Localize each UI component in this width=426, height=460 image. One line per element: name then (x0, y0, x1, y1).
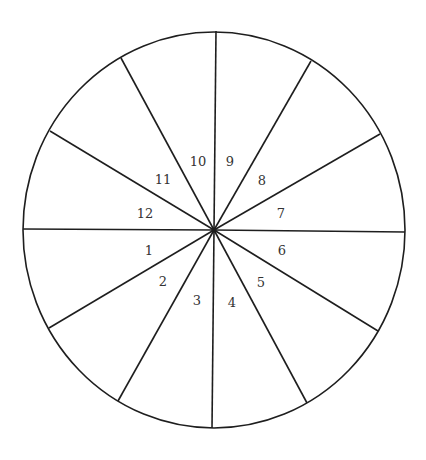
spoke-lower-left-1 (49, 230, 214, 328)
sector-label-2: 2 (159, 275, 167, 288)
center-point (212, 228, 217, 233)
sector-label-8: 8 (258, 174, 266, 187)
spoke-upper-right-1 (214, 61, 311, 230)
sector-label-5: 5 (257, 276, 265, 289)
spoke-upper-right-2 (214, 134, 380, 230)
divided-circle-diagram: 123456789101112 (0, 0, 426, 460)
sector-label-4: 4 (228, 296, 236, 309)
spoke-right (214, 230, 405, 232)
spoke-top (214, 31, 216, 230)
spoke-lower-right-2 (214, 230, 378, 331)
sector-label-1: 1 (145, 244, 153, 257)
spoke-lower-right-1 (214, 230, 307, 403)
spoke-upper-left-2 (50, 131, 214, 230)
spoke-bottom (212, 230, 214, 428)
sector-label-3: 3 (193, 294, 201, 307)
sector-label-10: 10 (190, 155, 207, 168)
spoke-upper-left-1 (121, 58, 214, 230)
sector-label-6: 6 (278, 244, 286, 257)
sector-label-11: 11 (155, 173, 172, 186)
spoke-lower-left-2 (118, 230, 214, 401)
spoke-left (23, 229, 214, 230)
sector-label-12: 12 (137, 207, 154, 220)
circle-diagram-svg (0, 0, 426, 460)
sector-label-9: 9 (226, 155, 234, 168)
sector-label-7: 7 (277, 207, 285, 220)
